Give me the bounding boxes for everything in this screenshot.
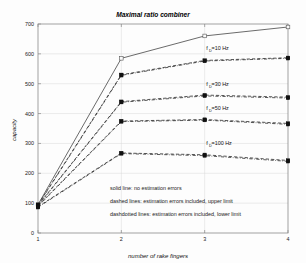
legend-note-2: dashdotted lines: estimation errors incl… [110, 211, 241, 217]
annotation-value: =30 Hz [212, 81, 230, 87]
data-point-marker [203, 94, 206, 97]
data-point-marker [120, 152, 123, 155]
legend-note-0: solid line: no estimation errors [110, 185, 182, 191]
legend-note-1: dashed lines: estimation errors included… [110, 198, 233, 204]
annotation-value: =10 Hz [212, 45, 230, 51]
data-point-marker [203, 59, 206, 62]
data-point-marker [120, 74, 123, 77]
y-tick-label: 400 [25, 111, 34, 117]
series-markers [36, 25, 290, 209]
data-point-marker [286, 25, 290, 29]
tick-labels: 01002003004005006007001234 [25, 21, 290, 242]
series-line [38, 120, 288, 206]
y-tick-label: 200 [25, 170, 34, 176]
x-tick-label: 2 [120, 236, 123, 242]
data-point-marker [286, 96, 289, 99]
data-point-marker [120, 120, 123, 123]
annotation-value: =50 Hz [212, 105, 230, 111]
y-axis-title: capacity [11, 118, 17, 141]
annotation-fd30: fD=30 Hz [206, 81, 229, 89]
data-point-marker [203, 34, 207, 38]
annotation-fd50: fD=50 Hz [206, 105, 229, 113]
y-tick-label: 600 [25, 51, 34, 57]
data-point-marker [120, 101, 123, 104]
x-axis-title: number of rake fingers [128, 253, 188, 259]
data-point-marker [120, 57, 124, 61]
annotation-fd10: fD=10 Hz [206, 45, 229, 53]
data-point-marker [286, 123, 289, 126]
data-point-marker [36, 206, 39, 209]
chart-title: Maximal ratio combiner [116, 11, 190, 18]
y-tick-label: 0 [31, 230, 34, 236]
data-point-marker [203, 118, 206, 121]
y-tick-label: 700 [25, 21, 34, 27]
y-tick-label: 100 [25, 200, 34, 206]
annotation-value: =100 Hz [212, 140, 233, 146]
x-tick-label: 4 [287, 236, 290, 242]
annotation-fd100: fD=100 Hz [206, 140, 232, 148]
x-tick-label: 1 [37, 236, 40, 242]
figure-container: 01002003004005006007001234 fD=10 HzfD=30… [0, 0, 306, 263]
data-point-marker [286, 160, 289, 163]
data-point-marker [203, 154, 206, 157]
y-tick-label: 500 [25, 81, 34, 87]
legend-notes: solid line: no estimation errorsdashed l… [110, 185, 241, 217]
x-tick-label: 3 [203, 236, 206, 242]
chart-canvas: 01002003004005006007001234 fD=10 HzfD=30… [0, 0, 306, 263]
y-tick-label: 300 [25, 140, 34, 146]
data-point-marker [286, 57, 289, 60]
series-line [38, 120, 288, 206]
